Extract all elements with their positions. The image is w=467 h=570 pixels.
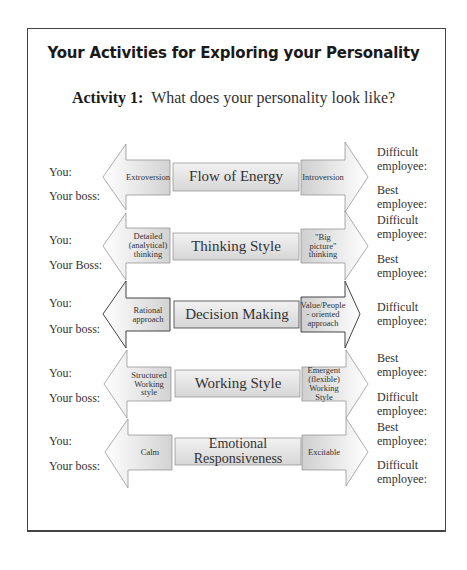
trait-excitable: Excitable	[302, 435, 346, 470]
boss-label: Your boss:	[49, 391, 100, 405]
difficult-employee-label: Difficult employee:	[377, 213, 447, 241]
dimension-working-style: Working Style	[176, 370, 300, 397]
dimension-emotional-responsiveness: Emotional Responsiveness	[176, 438, 300, 465]
difficult-employee-label: Difficult employee:	[377, 458, 447, 486]
trait-emergent-working-style: Emergent (flexible) Working Style	[301, 367, 347, 401]
difficult-employee-label: Difficult employee:	[377, 390, 447, 418]
trait-rational-approach: Rational approach	[126, 298, 170, 331]
difficult-employee-label: Difficult employee:	[377, 300, 447, 328]
dimension-thinking-style: Thinking Style	[174, 233, 298, 260]
you-label: You:	[49, 366, 72, 380]
you-label: You:	[49, 434, 72, 448]
you-label: You:	[49, 165, 72, 179]
trait-extroversion: Extroversion	[126, 160, 170, 195]
trait-structured-working-style: Structured Working style	[127, 367, 171, 401]
you-label: You:	[49, 233, 72, 247]
trait-calm: Calm	[128, 435, 172, 470]
difficult-employee-label: Difficult employee:	[377, 145, 447, 173]
best-employee-label: Best employee:	[377, 351, 447, 379]
boss-label: Your boss:	[49, 322, 100, 336]
best-employee-label: Best employee:	[377, 183, 447, 211]
dimension-decision-making: Decision Making	[175, 301, 299, 328]
best-employee-label: Best employee:	[377, 252, 447, 280]
boss-label: Your boss:	[49, 189, 100, 203]
trait-big-picture-thinking: "Big picture" thinking	[301, 229, 345, 263]
boss-label: Your Boss:	[49, 258, 102, 272]
you-label: You:	[49, 296, 72, 310]
best-employee-label: Best employee:	[377, 420, 447, 448]
trait-detailed-thinking: Detailed (analytical) thinking	[126, 228, 170, 263]
trait-value-people-oriented: Value/People - oriented approach	[300, 297, 346, 332]
trait-introversion: Introversion	[301, 160, 345, 195]
boss-label: Your boss:	[49, 459, 100, 473]
dimension-flow-of-energy: Flow of Energy	[174, 163, 298, 191]
